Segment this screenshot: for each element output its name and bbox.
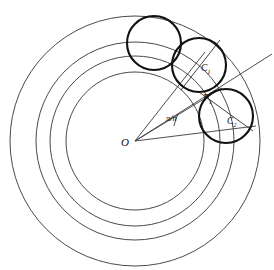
- center-label-o: O: [121, 136, 129, 148]
- label-c2: C2: [227, 116, 237, 128]
- ray-lower: [135, 126, 256, 141]
- geometry-figure: O π/n C1 P1 C2: [0, 0, 274, 270]
- label-c1: C1: [201, 63, 211, 75]
- angle-label: π/n: [166, 113, 177, 123]
- figure-canvas: O π/n C1 P1 C2: [0, 0, 274, 270]
